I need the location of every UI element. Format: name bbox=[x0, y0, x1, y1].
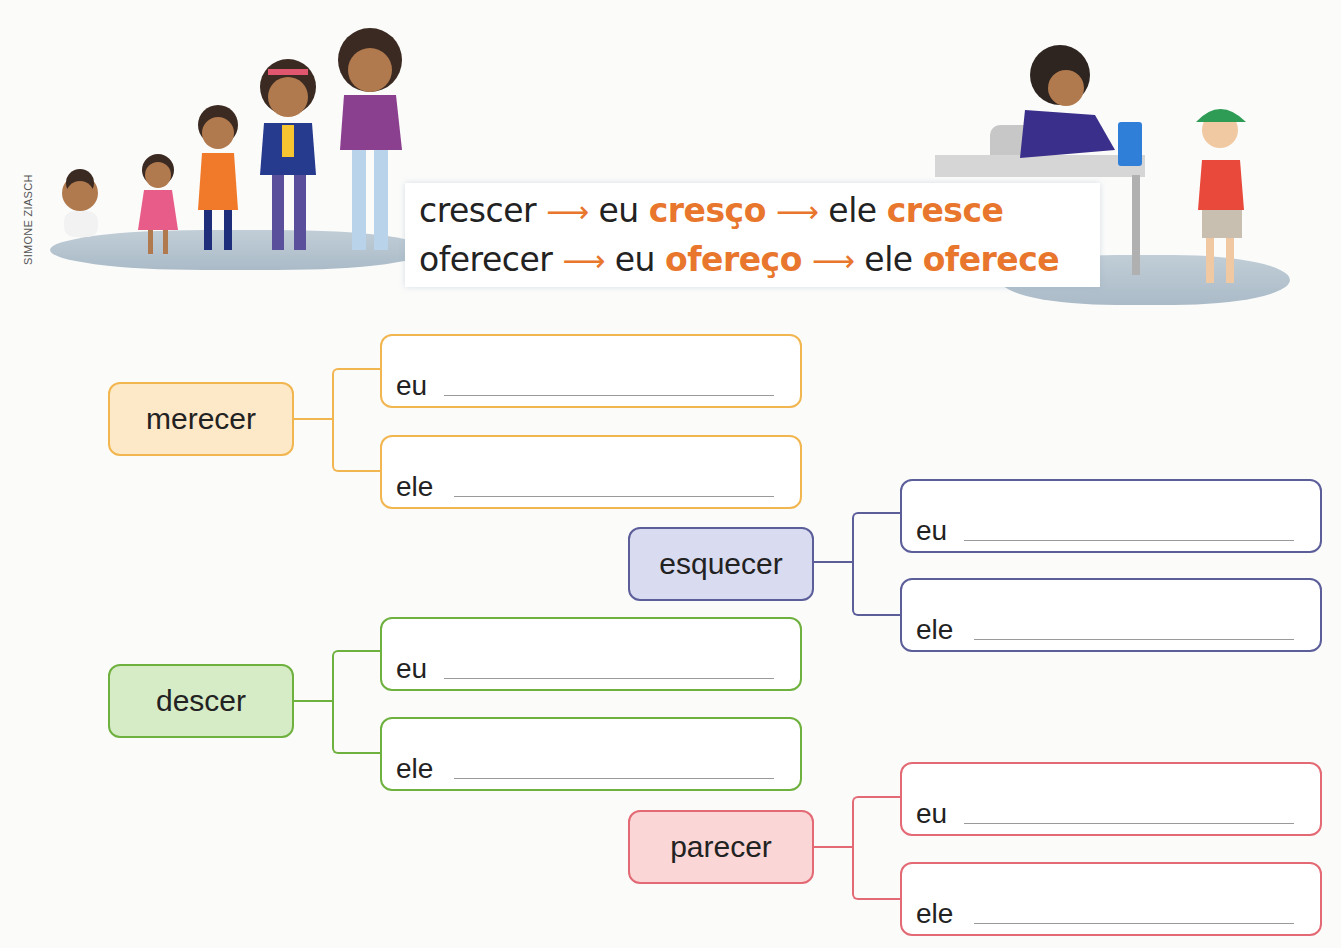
connector bbox=[812, 561, 852, 563]
example-line-2: oferecer ⟶ eu ofereço ⟶ ele oferece bbox=[419, 240, 1059, 279]
answer-field-eu[interactable]: eu bbox=[900, 762, 1322, 836]
family-growth-illustration bbox=[40, 25, 430, 270]
verb-box: parecer bbox=[628, 810, 814, 884]
pronoun-ele: ele bbox=[864, 240, 912, 279]
example-verb: crescer bbox=[419, 191, 536, 230]
connector bbox=[292, 700, 332, 702]
ele-form: oferece bbox=[923, 240, 1060, 279]
verb-box: esquecer bbox=[628, 527, 814, 601]
answer-field-eu[interactable]: eu bbox=[380, 334, 802, 408]
arrow-right-icon: ⟶ bbox=[812, 243, 855, 278]
answer-line bbox=[974, 923, 1294, 924]
answer-line bbox=[454, 778, 774, 779]
pronoun-label: ele bbox=[916, 898, 953, 930]
pronoun-label: eu bbox=[396, 653, 427, 685]
verb-box: descer bbox=[108, 664, 294, 738]
connector bbox=[292, 418, 332, 420]
people-figures bbox=[40, 25, 430, 270]
answer-line bbox=[454, 496, 774, 497]
answer-field-ele[interactable]: ele bbox=[900, 578, 1322, 652]
pronoun-label: eu bbox=[916, 515, 947, 547]
pronoun-label: eu bbox=[396, 370, 427, 402]
conjugation-example-box: crescer ⟶ eu cresço ⟶ ele cresce oferece… bbox=[405, 183, 1100, 287]
answer-field-ele[interactable]: ele bbox=[380, 435, 802, 509]
example-line-1: crescer ⟶ eu cresço ⟶ ele cresce bbox=[419, 191, 1003, 230]
pronoun-label: eu bbox=[916, 798, 947, 830]
eu-form: ofereço bbox=[665, 240, 802, 279]
pronoun-ele: ele bbox=[828, 191, 876, 230]
example-verb: oferecer bbox=[419, 240, 552, 279]
answer-line bbox=[974, 639, 1294, 640]
answer-field-eu[interactable]: eu bbox=[900, 479, 1322, 553]
connector bbox=[852, 512, 900, 616]
pronoun-label: ele bbox=[396, 471, 433, 503]
answer-line bbox=[964, 823, 1294, 824]
pronoun-eu: eu bbox=[599, 191, 639, 230]
pronoun-label: ele bbox=[396, 753, 433, 785]
ele-form: cresce bbox=[887, 191, 1004, 230]
arrow-right-icon: ⟶ bbox=[776, 194, 819, 229]
pronoun-label: ele bbox=[916, 614, 953, 646]
arrow-right-icon: ⟶ bbox=[546, 194, 589, 229]
verb-box: merecer bbox=[108, 382, 294, 456]
answer-line bbox=[964, 540, 1294, 541]
answer-line bbox=[444, 395, 774, 396]
answer-field-ele[interactable]: ele bbox=[380, 717, 802, 791]
connector bbox=[852, 796, 900, 900]
connector bbox=[332, 368, 380, 472]
connector bbox=[812, 846, 852, 848]
answer-field-eu[interactable]: eu bbox=[380, 617, 802, 691]
connector bbox=[332, 650, 380, 754]
pronoun-eu: eu bbox=[615, 240, 655, 279]
answer-field-ele[interactable]: ele bbox=[900, 862, 1322, 936]
eu-form: cresço bbox=[649, 191, 766, 230]
answer-line bbox=[444, 678, 774, 679]
illustrator-credit: SIMONE ZIASCH bbox=[22, 174, 34, 265]
arrow-right-icon: ⟶ bbox=[562, 243, 605, 278]
